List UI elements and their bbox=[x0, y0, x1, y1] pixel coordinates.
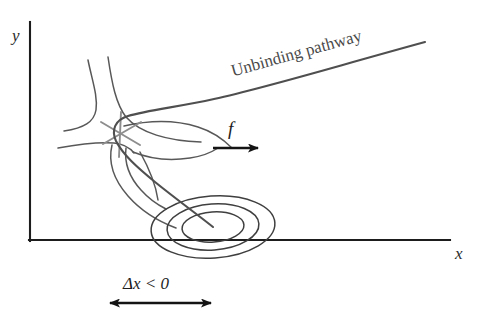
displacement-label: Δx < 0 bbox=[123, 274, 169, 294]
x-axis-label: x bbox=[455, 244, 463, 264]
contour-lines-group bbox=[58, 57, 232, 228]
saddle-marker-stroke-c bbox=[103, 122, 141, 144]
contour-lower-right-arm bbox=[133, 148, 218, 159]
axes-group bbox=[29, 22, 450, 241]
y-axis-label: y bbox=[12, 26, 20, 46]
force-label: f bbox=[228, 118, 233, 140]
contour-upper-right-branch bbox=[108, 57, 201, 142]
figure-canvas: y x Unbinding pathway f Δx < 0 bbox=[0, 0, 500, 327]
contour-upper-left-branch bbox=[64, 60, 96, 131]
diagram-svg bbox=[0, 0, 500, 327]
